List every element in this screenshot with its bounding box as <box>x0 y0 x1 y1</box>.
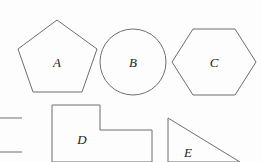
stepped-polygon-shape-d <box>52 105 152 162</box>
shape-label-a: A <box>53 56 61 69</box>
shape-diagram-canvas <box>0 0 261 162</box>
shape-label-e: E <box>184 146 192 159</box>
shape-label-d: D <box>77 133 86 146</box>
shape-label-c: C <box>210 56 219 69</box>
shape-label-b: B <box>129 56 137 69</box>
right-triangle-shape-e <box>168 118 240 162</box>
geometry-figure-sheet: A B C D E <box>0 0 261 162</box>
